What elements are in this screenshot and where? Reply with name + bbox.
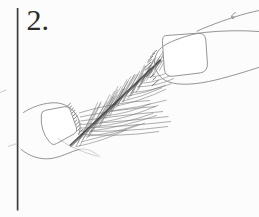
lower-finger-bottom-contour-tail [79,149,100,157]
upper-fingernail [162,33,207,76]
upper-finger [155,11,259,85]
figure-panel: 2. [0,0,259,217]
lower-finger-bottom-contour [21,149,79,159]
strand-shaft [70,60,162,147]
strand-line [70,60,161,146]
illustration: 2. [0,0,259,217]
lower-finger-crease [58,139,97,157]
strand-line [118,76,135,106]
upper-finger-top-edge [197,11,259,32]
stray-mark [0,90,7,93]
figure-number: 2. [27,3,50,36]
strand-line [153,77,157,80]
